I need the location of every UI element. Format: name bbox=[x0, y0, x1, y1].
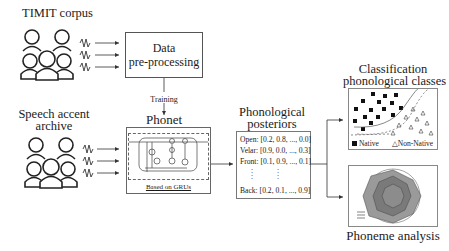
posterior-row-back: Back: [0.2, 0.1, ..., 0.9] bbox=[240, 185, 310, 196]
posterior-ellipsis-mid-2: : bbox=[277, 174, 279, 180]
phonet-title: Phonet bbox=[130, 113, 198, 126]
preprocessing-line2: pre-processing bbox=[126, 56, 202, 69]
phoneme-analysis-title: Phoneme analysis bbox=[340, 229, 446, 242]
preprocessing-box: Data pre-processing bbox=[125, 32, 203, 78]
timit-corpus-label: TIMIT corpus bbox=[22, 7, 92, 20]
classification-title-line2: phonological classes bbox=[343, 75, 443, 88]
native-square-icon bbox=[352, 141, 357, 146]
training-label: Training bbox=[140, 93, 188, 106]
phonet-caption: Based on GRUs bbox=[127, 183, 210, 192]
legend-non-native-label: Non-Native bbox=[398, 139, 433, 148]
posterior-row-velar: Velar: [0.9, 0.0, ..., 0.3] bbox=[240, 145, 310, 156]
people-group-icon bbox=[24, 133, 82, 191]
phoneme-radar-plot bbox=[348, 165, 438, 227]
legend-native: Native bbox=[352, 139, 379, 148]
posteriors-box: Open: [0.2, 0.8, ..., 0.0] Velar: [0.9, … bbox=[236, 131, 311, 199]
radar-chart-icon bbox=[349, 166, 437, 226]
posterior-ellipsis-left-2: : bbox=[251, 174, 253, 180]
scatter-plot-icon bbox=[349, 89, 437, 139]
phonet-box: Based on GRUs bbox=[126, 127, 211, 194]
legend-non-native: △Non-Native bbox=[392, 139, 433, 148]
classification-plot: Native △Non-Native bbox=[348, 88, 438, 150]
preprocessing-line1: Data bbox=[126, 42, 202, 55]
posteriors-title-line2: posteriors bbox=[230, 118, 314, 131]
legend-native-label: Native bbox=[359, 139, 379, 148]
people-group-icon bbox=[20, 25, 78, 83]
posterior-row-open: Open: [0.2, 0.8, ..., 0.0] bbox=[240, 134, 310, 145]
speech-accent-label-line2: archive bbox=[14, 120, 94, 133]
